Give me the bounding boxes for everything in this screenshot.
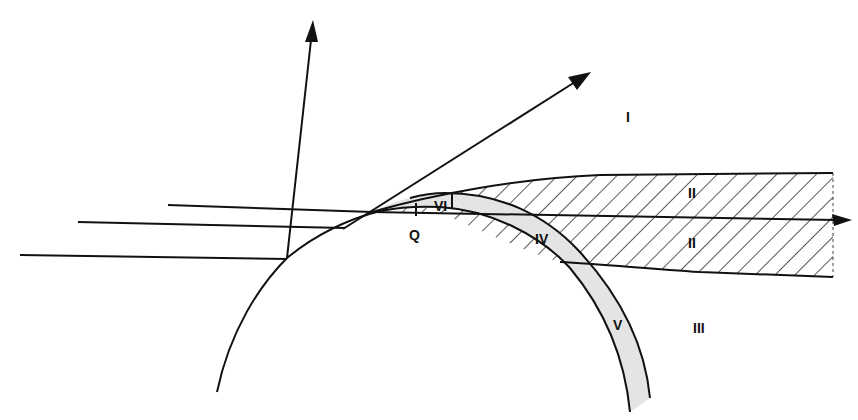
label-region-II-upper: II — [688, 185, 696, 201]
incident-ray-1 — [168, 205, 372, 212]
hatched-wake-region — [372, 173, 833, 277]
label-region-I: I — [626, 109, 630, 125]
normal-arrowhead-icon — [305, 20, 318, 42]
label-region-IV: IV — [535, 231, 549, 247]
label-region-III: III — [693, 320, 705, 336]
label-Q: Q — [409, 227, 420, 243]
tangent-arrowhead-icon — [568, 72, 591, 90]
diagram-canvas: Q I II II III IV V VI — [0, 0, 858, 420]
axis-arrowhead-icon — [832, 214, 852, 226]
normal-arrow-shaft — [287, 40, 311, 258]
incident-ray-2 — [78, 222, 345, 228]
label-region-V: V — [613, 317, 623, 333]
label-region-II-lower: II — [688, 235, 696, 251]
incident-ray-3 — [20, 255, 287, 259]
label-region-VI: VI — [434, 198, 447, 214]
